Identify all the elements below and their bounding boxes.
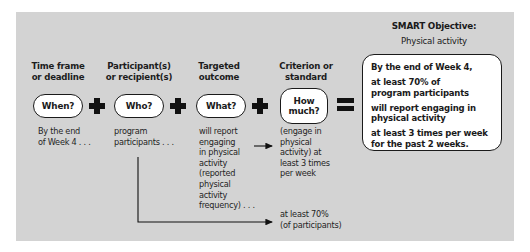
arrow-who-to-criterion — [138, 157, 272, 222]
result-line: at least 3 times per week — [371, 128, 488, 138]
result-line: physical activity — [371, 113, 446, 123]
result-participants: at least 70% of program participants — [371, 77, 493, 98]
result-line: By the end of Week 4, — [371, 62, 472, 72]
result-outcome: will report engaging in physical activit… — [371, 103, 493, 124]
smart-objective-box: By the end of Week 4, at least 70% of pr… — [362, 54, 502, 151]
result-timeframe: By the end of Week 4, — [371, 62, 493, 72]
result-criterion: at least 3 times per week for the past 2… — [371, 128, 493, 149]
result-line: program participants — [371, 88, 469, 98]
result-line: at least 70% of — [371, 77, 440, 87]
result-line: for the past 2 weeks. — [371, 139, 468, 149]
result-line: will report engaging in — [371, 103, 476, 113]
